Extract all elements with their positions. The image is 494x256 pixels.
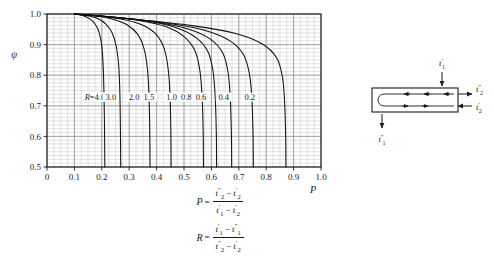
y-tick-label: 0.8 <box>30 70 42 80</box>
fraction-denominator: t′1−t′2 <box>213 201 243 217</box>
operator-minus: − <box>224 205 233 215</box>
formula-block: P=t″2−t′2t′1−t′2R=t′1−t″1t″2−t′2 <box>120 186 320 253</box>
curve-label-0.4: 0.4 <box>218 92 229 102</box>
fraction-numerator: t′1−t″1 <box>213 222 244 237</box>
x-tick-label: 0 <box>45 172 50 182</box>
exchanger-diagram-svg: t′1t″1t″2t′2 <box>358 52 490 164</box>
curve-label-0.8: 0.8 <box>181 92 192 102</box>
y-tick-label: 0.7 <box>30 101 42 111</box>
x-tick-label: 0.2 <box>96 172 107 182</box>
fraction-denominator: t″2−t′2 <box>213 237 244 253</box>
fraction: t″2−t′2t′1−t′2 <box>213 186 244 218</box>
curve-label-1.5: 1.5 <box>144 92 155 102</box>
temperature-symbol: t′2 <box>233 241 240 251</box>
temperature-symbol: t″1 <box>232 224 241 234</box>
operator-minus: − <box>224 241 233 251</box>
y-tick-label: 0.5 <box>30 162 42 172</box>
diagram-label-outlet-bottom: t″1 <box>378 133 385 147</box>
x-tick-label: 0.5 <box>178 172 190 182</box>
formula-P-definition: P=t″2−t′2t′1−t′2 <box>196 186 243 218</box>
x-tick-label: 0.1 <box>69 172 80 182</box>
fraction: t′1−t″1t″2−t′2 <box>213 222 244 254</box>
curve-label-group: R=4.03.02.01.51.00.80.60.40.2 <box>82 92 257 102</box>
y-axis-title: ψ <box>11 49 18 60</box>
curve-label-3.0: 3.0 <box>106 92 117 102</box>
x-axis-ticks: 00.10.20.30.40.50.60.70.80.91.0 <box>45 167 327 182</box>
shell-body <box>372 88 458 112</box>
fraction-numerator: t″2−t′2 <box>213 186 244 201</box>
chart-container: R=4.03.02.01.51.00.80.60.40.2 00.10.20.3… <box>0 0 340 200</box>
operator-minus: − <box>224 188 233 198</box>
x-tick-label: 1.0 <box>315 172 327 182</box>
operator-minus: − <box>223 224 232 234</box>
formula-equals: = <box>204 232 209 242</box>
y-tick-label: 0.6 <box>30 132 42 142</box>
x-tick-label: 0.6 <box>206 172 218 182</box>
temperature-symbol: t″2 <box>216 188 225 198</box>
formula-lhs: P <box>196 196 202 207</box>
diagram-label-inlet-right-lower: t′2 <box>476 101 482 115</box>
psi-vs-p-chart: R=4.03.02.01.51.00.80.60.40.2 00.10.20.3… <box>0 0 340 200</box>
y-tick-label: 1.0 <box>30 9 42 19</box>
exchanger-diagram: t′1t″1t″2t′2 <box>358 52 490 164</box>
x-tick-label: 0.8 <box>261 172 273 182</box>
formula-lhs: R <box>196 232 202 243</box>
y-tick-label: 0.9 <box>30 40 42 50</box>
temperature-symbol: t′2 <box>233 188 240 198</box>
temperature-symbol: t′2 <box>233 205 240 215</box>
x-tick-label: 0.9 <box>288 172 300 182</box>
x-tick-label: 0.7 <box>233 172 245 182</box>
curve-label-0.2: 0.2 <box>244 92 255 102</box>
y-axis-ticks: 0.50.60.70.80.91.0 <box>30 9 47 172</box>
curve-label-4.0: R=4.0 <box>84 92 106 102</box>
curve-label-0.6: 0.6 <box>196 92 207 102</box>
temperature-symbol: t″2 <box>216 241 225 251</box>
formula-R-definition: R=t′1−t″1t″2−t′2 <box>196 222 243 254</box>
x-tick-label: 0.3 <box>124 172 136 182</box>
temperature-symbol: t′1 <box>216 205 223 215</box>
temperature-symbol: t′1 <box>216 224 223 234</box>
figure-root: R=4.03.02.01.51.00.80.60.40.2 00.10.20.3… <box>0 0 494 256</box>
diagram-label-outlet-right-upper: t″2 <box>476 83 483 97</box>
diagram-label-inlet-top: t′1 <box>439 57 445 71</box>
x-tick-label: 0.4 <box>151 172 163 182</box>
curve-label-2.0: 2.0 <box>129 92 140 102</box>
formula-equals: = <box>204 197 209 207</box>
curve-label-1.0: 1.0 <box>166 92 177 102</box>
